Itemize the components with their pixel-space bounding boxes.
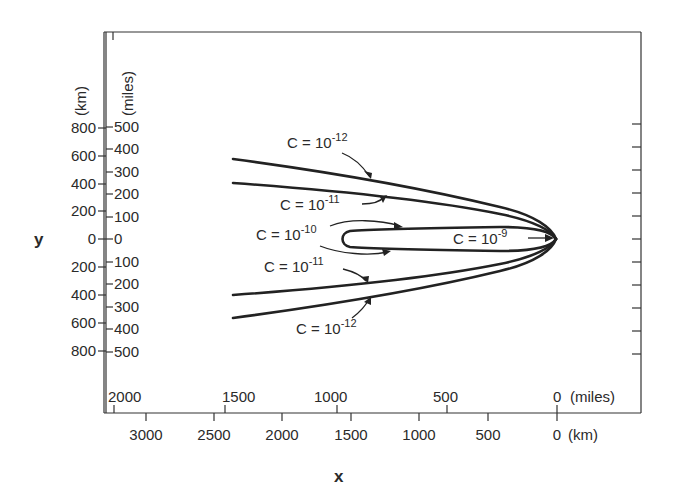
x-axis-miles-ticks xyxy=(114,405,557,413)
svg-text:2000: 2000 xyxy=(108,388,141,405)
label-c-1e-12-lower: C = 10-12 xyxy=(296,317,357,337)
svg-text:100: 100 xyxy=(114,253,139,270)
label-c-1e-11-upper: C = 10-11 xyxy=(280,193,340,213)
annotation-labels: C = 10-12 C = 10-11 C = 10-10 C = 10-9 C… xyxy=(256,131,507,337)
svg-text:500: 500 xyxy=(475,426,500,443)
svg-text:200: 200 xyxy=(71,258,96,275)
label-c-1e-11-lower: C = 10-11 xyxy=(264,255,324,275)
x-axis-miles-labels: 2000 1500 1000 500 0 (miles) xyxy=(108,388,615,405)
svg-text:600: 600 xyxy=(71,314,96,331)
svg-text:400: 400 xyxy=(114,140,139,157)
svg-text:500: 500 xyxy=(114,118,139,135)
y-axis-km-ticks xyxy=(98,128,106,351)
svg-text:2500: 2500 xyxy=(197,426,230,443)
svg-text:0: 0 xyxy=(88,230,96,247)
svg-text:300: 300 xyxy=(114,298,139,315)
right-frame-ticks xyxy=(632,124,641,354)
y-unit-km: (km) xyxy=(72,86,89,116)
svg-text:0: 0 xyxy=(114,230,122,247)
y-axis-title: y xyxy=(34,230,44,249)
y-unit-miles: (miles) xyxy=(119,71,136,116)
svg-text:500: 500 xyxy=(433,388,458,405)
y-axis-miles-ticks xyxy=(106,127,113,352)
svg-text:1500: 1500 xyxy=(334,426,367,443)
svg-text:1000: 1000 xyxy=(402,426,435,443)
svg-text:1500: 1500 xyxy=(222,388,255,405)
curve-loop-c-1e-10 xyxy=(343,227,557,251)
svg-text:800: 800 xyxy=(71,342,96,359)
x-axis-km-labels: 3000 2500 2000 1500 1000 500 0 xyxy=(129,426,561,443)
svg-text:100: 100 xyxy=(114,208,139,225)
svg-text:200: 200 xyxy=(114,275,139,292)
svg-text:800: 800 xyxy=(71,119,96,136)
svg-text:1000: 1000 xyxy=(314,388,347,405)
svg-text:0: 0 xyxy=(553,426,561,443)
label-c-1e-10: C = 10-10 xyxy=(256,223,317,243)
x-unit-km: (km) xyxy=(568,426,598,443)
svg-text:600: 600 xyxy=(71,147,96,164)
x-axis-title: x xyxy=(334,467,344,486)
svg-text:(miles): (miles) xyxy=(570,388,615,405)
svg-text:0: 0 xyxy=(553,388,561,405)
plot-frame xyxy=(104,32,641,413)
y-axis-miles-labels: 500 400 300 200 100 0 100 200 300 400 50… xyxy=(114,118,139,360)
svg-text:200: 200 xyxy=(114,185,139,202)
label-c-1e-12-upper: C = 10-12 xyxy=(287,131,348,151)
svg-text:400: 400 xyxy=(114,320,139,337)
svg-text:200: 200 xyxy=(71,202,96,219)
svg-text:3000: 3000 xyxy=(129,426,162,443)
svg-text:400: 400 xyxy=(71,286,96,303)
svg-text:2000: 2000 xyxy=(265,426,298,443)
svg-text:500: 500 xyxy=(114,343,139,360)
label-c-1e-9: C = 10-9 xyxy=(453,227,507,247)
chart: 800 600 400 200 0 200 400 600 800 500 40… xyxy=(0,0,675,500)
svg-text:400: 400 xyxy=(71,175,96,192)
x-axis-km-ticks xyxy=(146,413,557,421)
svg-text:300: 300 xyxy=(114,163,139,180)
y-axis-km-labels: 800 600 400 200 0 200 400 600 800 xyxy=(71,119,96,359)
